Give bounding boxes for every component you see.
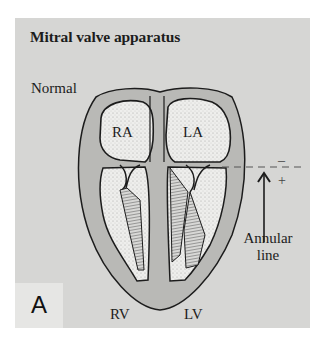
lv-label: LV	[184, 306, 203, 323]
annular-label-line2: line	[238, 247, 298, 264]
ra-label: RA	[112, 124, 133, 140]
rv-label: RV	[110, 306, 130, 323]
heart-diagram: RA LA – +	[0, 0, 326, 343]
annular-line-label: Annular line	[238, 230, 298, 264]
annular-label-line1: Annular	[238, 230, 298, 247]
below-annulus-sign: +	[278, 173, 286, 188]
panel-letter: A	[31, 291, 47, 319]
above-annulus-sign: –	[277, 153, 286, 168]
la-label: LA	[183, 124, 203, 140]
